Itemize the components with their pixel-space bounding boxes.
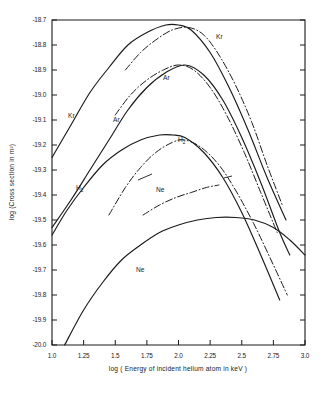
y-tick-label: -19.4 (32, 191, 46, 198)
y-axis-title: log (Cross section in m²) (8, 144, 16, 220)
x-tick-label: 1.0 (48, 352, 57, 359)
y-tick-label: -18.8 (32, 41, 46, 48)
curve-label-ar-solid: Ar (113, 116, 120, 123)
curve-label-ne-dashdot: Ne (156, 186, 165, 193)
curve-ar-dash-dot (115, 65, 277, 233)
curve-ne-dash-dot (143, 185, 219, 215)
x-axis-title: log ( Energy of incident helium atom in … (109, 365, 247, 373)
y-tick-label: -19.2 (32, 141, 46, 148)
y-tick-label: -18.7 (32, 16, 46, 23)
x-tick-label: 3.0 (301, 352, 310, 359)
curve-label-ar-dashdot: Ar (163, 74, 170, 81)
cross-section-plot: 1.01.251.51.752.02.252.52.753.0 -18.7-18… (0, 0, 330, 402)
curve-label-h2-solid: H2 (76, 184, 84, 193)
curve-label-ne-solid: Ne (136, 266, 145, 273)
ne-dashdot-leader (138, 174, 152, 180)
x-tick-label: 2.75 (268, 352, 280, 359)
y-tick-label: -19.0 (32, 91, 46, 98)
y-tick-label: -19.3 (32, 166, 46, 173)
y-tick-label: -19.8 (32, 291, 46, 298)
y-tick-label: -18.9 (32, 66, 46, 73)
y-tick-label: -19.6 (32, 241, 46, 248)
curve-label-kr-dashdot: Kr (216, 33, 223, 40)
y-tick-label: -19.9 (32, 316, 46, 323)
curve-kr-solid (52, 24, 286, 220)
y-tick-label: -20.0 (32, 341, 46, 348)
data-curves (52, 24, 305, 345)
curve-ar-solid (52, 65, 290, 255)
x-tick-label: 1.75 (141, 352, 153, 359)
y-axis-tick-labels: -18.7-18.8-18.9-19.0-19.1-19.2-19.3-19.4… (32, 16, 46, 348)
curve-h2-solid (52, 135, 280, 300)
curve-label-kr-solid: Kr (68, 112, 75, 119)
x-tick-label: 1.5 (111, 352, 120, 359)
x-axis-ticks (52, 340, 305, 345)
y-tick-label: -19.7 (32, 266, 46, 273)
x-tick-label: 1.25 (78, 352, 90, 359)
curve-ne-solid (65, 217, 305, 345)
y-tick-label: -19.5 (32, 216, 46, 223)
x-tick-label: 2.0 (174, 352, 183, 359)
plot-frame (52, 20, 305, 345)
y-axis-ticks (52, 20, 305, 345)
x-tick-label: 2.5 (238, 352, 247, 359)
y-tick-label: -19.1 (32, 116, 46, 123)
figure-container: 1.01.251.51.752.02.252.52.753.0 -18.7-18… (0, 0, 330, 402)
x-tick-label: 2.25 (204, 352, 216, 359)
x-axis-tick-labels: 1.01.251.51.752.02.252.52.753.0 (48, 352, 310, 359)
